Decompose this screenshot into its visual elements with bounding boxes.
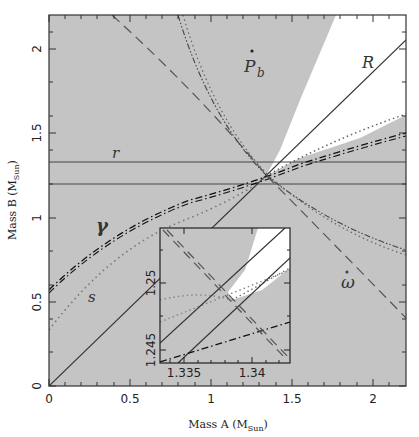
label-s: s [88, 288, 96, 306]
inset-x-tick-label: 1.34 [239, 366, 266, 380]
label-gamma: γ [96, 215, 109, 236]
x-tick-label: 0.5 [120, 392, 139, 406]
y-tick-label: 1 [30, 214, 44, 222]
x-tick-label: 0 [45, 392, 53, 406]
x-tick-label: 2 [369, 392, 377, 406]
x-axis-label: Mass A (MSun) [188, 418, 268, 433]
label-omega-dot: ω [341, 270, 355, 292]
svg-text:ω: ω [341, 272, 355, 292]
inset-plot: 1.335 1.34 1.25 1.245 [144, 228, 290, 380]
label-r: r [112, 144, 120, 162]
y-tick-label: 1.5 [30, 123, 44, 142]
inset-y-tick-label: 1.25 [144, 270, 158, 297]
svg-text:b: b [257, 66, 265, 80]
mass-mass-diagram: 0 0.5 1 1.5 2 0 0.5 1 1.5 2 Mass A (MSun… [0, 0, 419, 437]
y-tick-label: 0.5 [30, 292, 44, 311]
inset-x-tick-label: 1.335 [167, 366, 201, 380]
inset-y-tick-label: 1.245 [144, 333, 158, 367]
svg-text:P: P [243, 56, 256, 76]
y-tick-label: 2 [30, 45, 44, 53]
x-tick-label: 1 [207, 392, 215, 406]
y-tick-label: 0 [30, 382, 44, 390]
y-axis-label: Mass B (MSun) [6, 160, 21, 240]
x-tick-label: 1.5 [282, 392, 301, 406]
label-R: R [361, 53, 374, 72]
